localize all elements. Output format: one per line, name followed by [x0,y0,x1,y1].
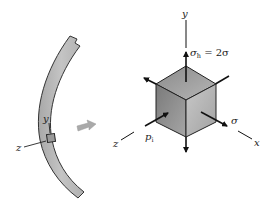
hoop-stress-label: σh = 2σ [190,47,229,60]
x-axis-label: x [254,137,260,148]
shell-element [46,133,55,142]
shell-segment: y z [15,36,84,198]
transition-arrow-icon [77,120,96,131]
z-axis-label: z [112,138,119,149]
shell-y-label: y [42,113,49,124]
x-axis [238,131,252,139]
z-axis [121,132,134,140]
internal-pressure-label: pi [145,131,154,144]
y-axis-label: y [181,8,188,19]
stress-element: y σh = 2σ pi σ x z [112,8,260,152]
shell-z-label: z [15,142,22,153]
pressure-vessel-diagram: y z y σh = 2σ pi σ [0,0,272,212]
longitudinal-stress-label: σ [231,115,239,126]
